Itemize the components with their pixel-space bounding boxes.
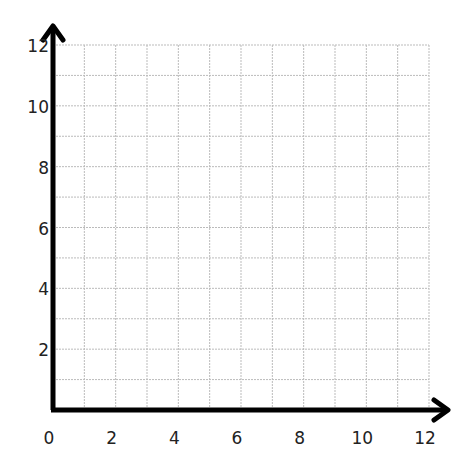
- x-tick-label: 12: [414, 428, 436, 448]
- x-tick-label: 8: [294, 428, 305, 448]
- x-tick-label: 0: [44, 428, 55, 448]
- coordinate-grid: 024681012 24681012: [0, 0, 468, 474]
- y-tick-label: 2: [38, 340, 49, 360]
- y-tick-label: 6: [38, 219, 49, 239]
- y-tick-label: 12: [27, 36, 49, 56]
- grid-lines: [53, 45, 429, 410]
- y-tick-label: 8: [38, 158, 49, 178]
- y-tick-label: 4: [38, 279, 49, 299]
- x-tick-label: 4: [169, 428, 180, 448]
- x-tick-label: 6: [232, 428, 243, 448]
- y-tick-label: 10: [27, 97, 49, 117]
- axes: [43, 26, 448, 420]
- x-tick-label: 10: [352, 428, 374, 448]
- y-tick-labels: 24681012: [27, 36, 49, 360]
- x-tick-labels: 024681012: [44, 428, 436, 448]
- x-tick-label: 2: [106, 428, 117, 448]
